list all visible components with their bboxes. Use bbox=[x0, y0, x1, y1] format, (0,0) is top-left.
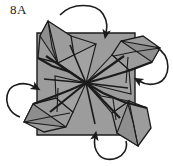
center-point bbox=[84, 81, 87, 84]
origami-diagram-svg bbox=[0, 0, 173, 166]
fold-arrow-bottom-path bbox=[94, 137, 126, 159]
fold-arrow-bottom bbox=[94, 137, 126, 159]
fold-arrow-top bbox=[60, 6, 107, 34]
origami-figure: 8A bbox=[0, 0, 173, 166]
fold-arrow-top-path bbox=[60, 6, 107, 34]
